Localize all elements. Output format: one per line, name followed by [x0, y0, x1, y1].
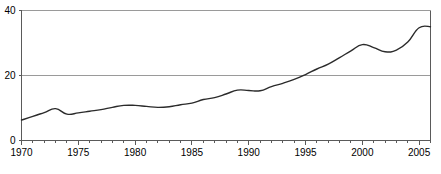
plot-background	[0, 0, 441, 174]
x-tick-label-1990: 1990	[238, 147, 261, 158]
y-tick-label-20: 20	[4, 70, 16, 81]
x-tick-label-1995: 1995	[294, 147, 317, 158]
y-tick-label-0: 0	[10, 135, 16, 146]
chart-container: 02040 19701975198019851990199520002005	[0, 0, 441, 174]
x-tick-label-2005: 2005	[408, 147, 431, 158]
x-tick-label-1975: 1975	[67, 147, 90, 158]
x-tick-label-1970: 1970	[10, 147, 33, 158]
x-tick-label-1980: 1980	[124, 147, 147, 158]
y-tick-label-40: 40	[4, 5, 16, 16]
x-tick-label-1985: 1985	[181, 147, 204, 158]
x-tick-label-2000: 2000	[351, 147, 374, 158]
line-chart: 02040 19701975198019851990199520002005	[0, 0, 441, 174]
